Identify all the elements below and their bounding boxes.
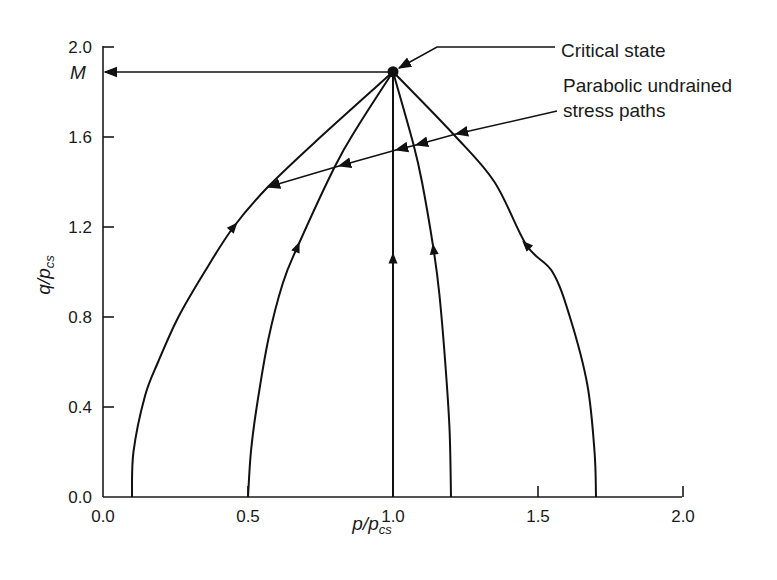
y-tick-label: 0.4 bbox=[68, 398, 92, 417]
x-tick-label: 0.0 bbox=[91, 507, 115, 526]
x-tick-label: 0.5 bbox=[236, 507, 260, 526]
y-tick-label: 2.0 bbox=[68, 38, 92, 57]
x-tick-label: 1.5 bbox=[526, 507, 550, 526]
stress-path-2 bbox=[248, 72, 393, 497]
y-axis-title: q/pcs bbox=[33, 255, 57, 295]
direction-arrow-icon bbox=[389, 253, 398, 264]
y-tick-label: 0.0 bbox=[68, 488, 92, 507]
direction-arrow-icon bbox=[291, 240, 303, 254]
m-label: M bbox=[70, 62, 86, 83]
stress-path-4 bbox=[393, 72, 451, 497]
stress-path-chart: 0.00.40.81.21.62.0 0.00.51.01.52.0 q/pcs… bbox=[0, 0, 777, 580]
stress-path-5 bbox=[393, 72, 596, 497]
stress-paths bbox=[132, 72, 596, 497]
y-ticks: 0.00.40.81.21.62.0 bbox=[68, 38, 114, 507]
y-tick-label: 0.8 bbox=[68, 308, 92, 327]
critical-state-label: Critical state bbox=[561, 40, 666, 61]
critical-state-pointer bbox=[399, 47, 555, 68]
parabolic-pointer bbox=[268, 111, 557, 187]
stress-path-1 bbox=[132, 72, 393, 497]
critical-state-point bbox=[388, 66, 399, 77]
x-tick-label: 2.0 bbox=[671, 507, 695, 526]
y-tick-label: 1.2 bbox=[68, 218, 92, 237]
parabolic-label-line2: stress paths bbox=[563, 100, 665, 121]
parabolic-label-line1: Parabolic undrained bbox=[563, 75, 732, 96]
y-tick-label: 1.6 bbox=[68, 128, 92, 147]
